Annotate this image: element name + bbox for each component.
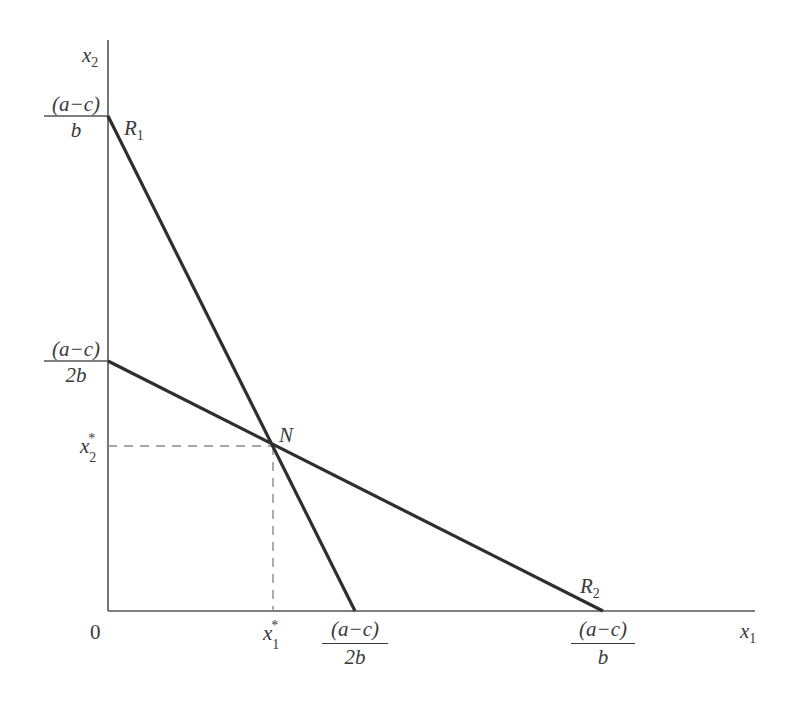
diagram-canvas — [0, 0, 793, 704]
label-equilibrium-n: N — [279, 425, 293, 446]
x-tick-label-a-c-over-b: (a−c) b — [571, 619, 635, 668]
reaction-line-r2 — [108, 361, 603, 611]
label-r2: R2 — [580, 576, 600, 601]
x-tick-label-a-c-over-2b: (a−c) 2b — [322, 619, 388, 668]
origin-label: 0 — [90, 622, 101, 643]
y-tick-label-a-c-over-b: (a−c) b — [44, 94, 108, 141]
x-tick-label-x1-star: x1* — [263, 621, 286, 648]
y-tick-label-x2-star: x2* — [80, 434, 103, 461]
label-r1: R1 — [124, 118, 144, 143]
x-axis-label: x1 — [740, 621, 756, 646]
y-tick-label-a-c-over-2b: (a−c) 2b — [44, 339, 108, 386]
reaction-line-r1 — [108, 116, 355, 611]
y-axis-label: x2 — [82, 45, 98, 70]
